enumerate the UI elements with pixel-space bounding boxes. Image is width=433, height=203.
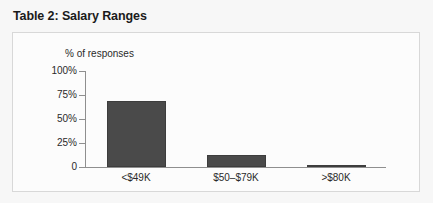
x-axis-line — [86, 167, 386, 168]
y-axis-tick — [79, 95, 86, 96]
chart-panel: % of responses 025%50%75%100% <$49K$50–$… — [12, 32, 420, 192]
y-axis-title: % of responses — [65, 48, 134, 59]
y-axis-tick — [79, 119, 86, 120]
page-title: Table 2: Salary Ranges — [13, 9, 147, 23]
y-axis-tick — [79, 143, 86, 144]
y-axis-tick-label: 100% — [17, 65, 77, 76]
bar — [307, 165, 366, 167]
plot-area: % of responses 025%50%75%100% <$49K$50–$… — [13, 33, 421, 193]
x-axis-label: <$49K — [86, 172, 186, 183]
x-axis-label: >$80K — [286, 172, 386, 183]
y-axis-tick-label: 25% — [17, 137, 77, 148]
x-axis-label: $50–$79K — [186, 172, 286, 183]
y-axis-tick-label: 0 — [17, 161, 77, 172]
y-axis-tick — [79, 71, 86, 72]
y-axis-tick-label: 75% — [17, 89, 77, 100]
chart-figure: Table 2: Salary Ranges % of responses 02… — [0, 0, 433, 203]
bar — [207, 155, 266, 167]
y-axis-tick — [79, 167, 86, 168]
y-axis-tick-label: 50% — [17, 113, 77, 124]
bar — [107, 101, 166, 167]
